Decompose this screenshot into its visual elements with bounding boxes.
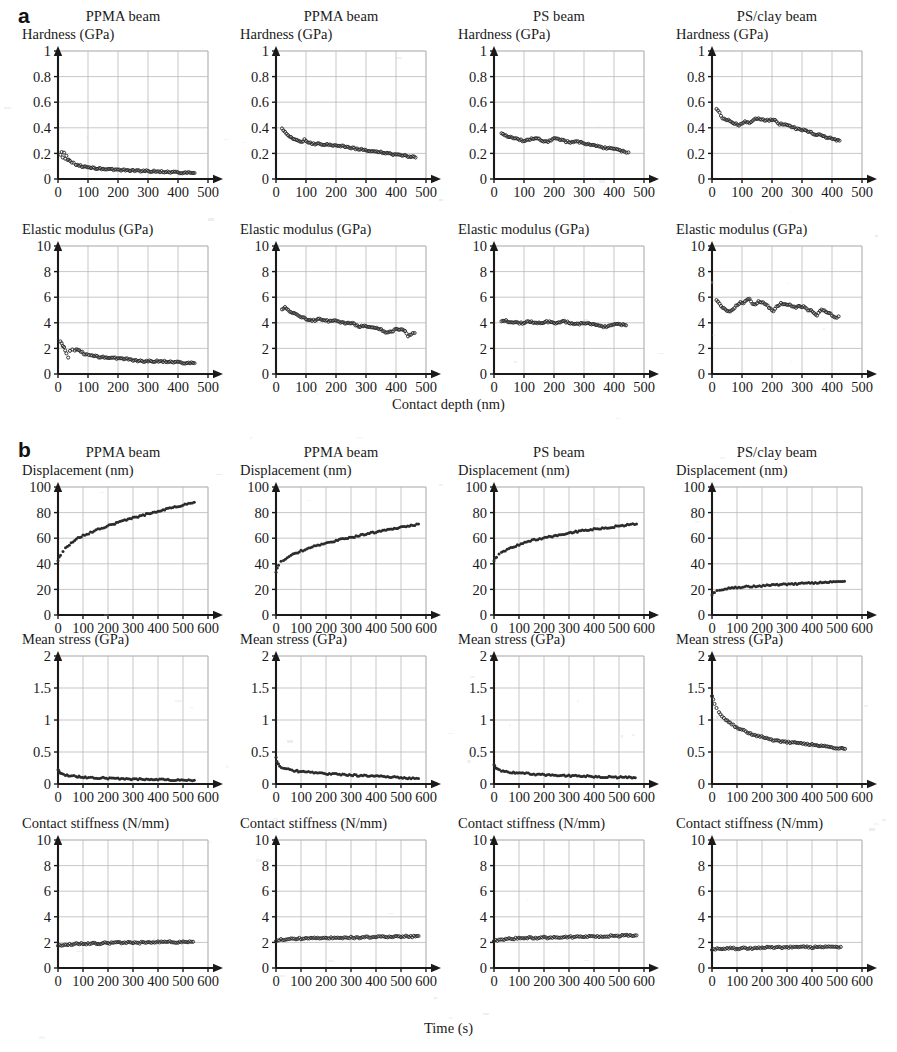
plot-cell-a-r2-c2: Elastic modulus (GPa)0246810010020030040… bbox=[232, 220, 450, 396]
x-tick-label: 500 bbox=[390, 973, 412, 989]
y-tick-label: 0.8 bbox=[251, 69, 269, 85]
scan-artifact bbox=[104, 614, 108, 617]
x-tick-label: 200 bbox=[751, 973, 773, 989]
x-tick-label: 0 bbox=[490, 379, 497, 395]
y-tick-label: 0.6 bbox=[687, 94, 705, 110]
y-tick-label: 0 bbox=[262, 171, 269, 187]
scan-artifact bbox=[216, 474, 222, 476]
plot-cell-b-r2-c1: Mean stress (GPa)00.511.5201002003004005… bbox=[14, 630, 232, 806]
scan-artifact bbox=[224, 139, 229, 140]
data-series bbox=[57, 501, 196, 562]
x-axis-arrow bbox=[867, 370, 877, 378]
y-tick-label: 0 bbox=[698, 960, 705, 976]
plot-area: 02468100100200300400500 bbox=[14, 238, 232, 396]
scan-artifact bbox=[287, 740, 293, 743]
column-title: PS/clay beam bbox=[668, 444, 886, 461]
data-series bbox=[715, 107, 841, 142]
x-tick-label: 300 bbox=[558, 973, 580, 989]
scan-artifact bbox=[716, 716, 719, 719]
plot-canvas: 0204060801000100200300400500600 bbox=[668, 479, 886, 637]
figure-root: a b PPMA beamHardness (GPa)00.20.40.60.8… bbox=[0, 0, 897, 1052]
y-tick-label: 2 bbox=[262, 648, 269, 664]
data-series bbox=[500, 319, 628, 329]
data-series bbox=[59, 340, 196, 365]
x-tick-label: 500 bbox=[608, 789, 630, 805]
x-tick-label: 0 bbox=[708, 789, 715, 805]
scan-artifact bbox=[175, 700, 182, 702]
y-tick-label: 10 bbox=[691, 238, 706, 254]
y-tick-label: 10 bbox=[255, 832, 270, 848]
plot-area: 0204060801000100200300400500600 bbox=[14, 479, 232, 637]
y-tick-label: 0.5 bbox=[687, 744, 705, 760]
x-tick-label: 0 bbox=[490, 184, 497, 200]
x-tick-label: 500 bbox=[826, 789, 848, 805]
scan-artifact bbox=[316, 393, 318, 395]
y-tick-label: 10 bbox=[37, 238, 52, 254]
y-axis-label: Displacement (nm) bbox=[668, 461, 886, 479]
y-tick-label: 8 bbox=[698, 264, 705, 280]
plot-cell-b-r1-c4: PS/clay beamDisplacement (nm)02040608010… bbox=[668, 444, 886, 637]
x-tick-label: 200 bbox=[751, 789, 773, 805]
x-tick-label: 100 bbox=[295, 184, 317, 200]
x-axis-arrow bbox=[213, 370, 223, 378]
x-axis-arrow bbox=[431, 780, 441, 788]
x-tick-label: 500 bbox=[415, 379, 437, 395]
y-tick-label: 0 bbox=[480, 776, 487, 792]
y-tick-label: 60 bbox=[473, 530, 488, 546]
scan-artifact bbox=[250, 437, 252, 440]
data-point bbox=[193, 501, 196, 504]
y-tick-label: 0.2 bbox=[687, 146, 705, 162]
x-tick-label: 200 bbox=[533, 973, 555, 989]
x-axis-arrow bbox=[213, 611, 223, 619]
y-tick-label: 6 bbox=[262, 289, 269, 305]
scan-artifact bbox=[509, 724, 511, 727]
x-tick-label: 400 bbox=[365, 789, 387, 805]
plot-canvas: 02468100100200300400500 bbox=[14, 238, 232, 396]
x-tick-label: 0 bbox=[54, 789, 61, 805]
y-tick-label: 1 bbox=[262, 712, 269, 728]
x-tick-label: 600 bbox=[633, 789, 655, 805]
x-axis-arrow bbox=[431, 370, 441, 378]
y-tick-label: 40 bbox=[473, 556, 488, 572]
x-tick-label: 200 bbox=[97, 973, 119, 989]
y-axis-label: Elastic modulus (GPa) bbox=[14, 220, 232, 238]
y-tick-label: 80 bbox=[37, 505, 52, 521]
y-tick-label: 0.5 bbox=[33, 744, 51, 760]
y-tick-label: 60 bbox=[691, 530, 706, 546]
y-tick-label: 10 bbox=[691, 832, 706, 848]
y-axis-label: Contact stiffness (N/mm) bbox=[232, 814, 450, 832]
y-tick-label: 6 bbox=[698, 883, 705, 899]
scan-artifact bbox=[577, 700, 579, 703]
y-tick-label: 2 bbox=[44, 648, 51, 664]
plot-canvas: 02468100100200300400500600 bbox=[668, 832, 886, 990]
y-tick-label: 6 bbox=[44, 289, 51, 305]
data-series bbox=[710, 945, 842, 952]
y-axis-label: Hardness (GPa) bbox=[232, 25, 450, 43]
y-axis-label: Elastic modulus (GPa) bbox=[668, 220, 886, 238]
data-series bbox=[493, 763, 637, 779]
scan-artifact bbox=[470, 676, 475, 678]
y-tick-label: 100 bbox=[29, 479, 51, 495]
y-tick-label: 6 bbox=[698, 289, 705, 305]
y-tick-label: 0.8 bbox=[469, 69, 487, 85]
data-series bbox=[280, 127, 417, 159]
y-tick-label: 40 bbox=[691, 556, 706, 572]
y-tick-label: 20 bbox=[255, 582, 270, 598]
x-axis-arrow bbox=[649, 611, 659, 619]
plot-cell-b-r1-c1: PPMA beamDisplacement (nm)02040608010001… bbox=[14, 444, 232, 637]
x-tick-label: 300 bbox=[573, 184, 595, 200]
data-point bbox=[59, 554, 62, 557]
y-tick-label: 0.8 bbox=[687, 69, 705, 85]
scan-artifact bbox=[76, 951, 81, 952]
x-tick-label: 600 bbox=[633, 973, 655, 989]
scan-artifact bbox=[788, 282, 789, 284]
y-axis-label: Displacement (nm) bbox=[450, 461, 668, 479]
y-tick-label: 1.5 bbox=[251, 680, 269, 696]
x-axis-arrow bbox=[649, 370, 659, 378]
x-axis-arrow bbox=[213, 780, 223, 788]
data-series bbox=[710, 695, 846, 751]
x-tick-label: 600 bbox=[197, 973, 219, 989]
plot-canvas: 02468100100200300400500600 bbox=[14, 832, 232, 990]
y-axis-label: Hardness (GPa) bbox=[450, 25, 668, 43]
scan-artifact bbox=[543, 15, 548, 17]
